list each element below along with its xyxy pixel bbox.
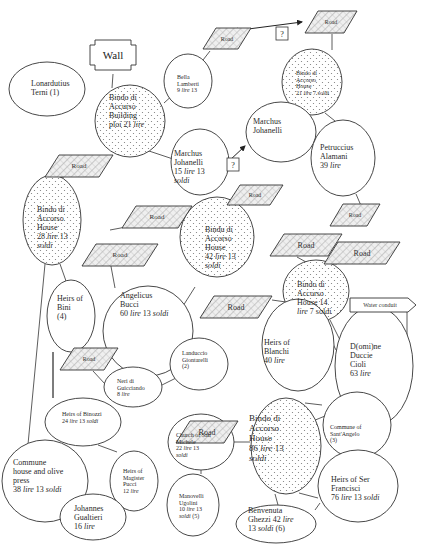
node-label-line: Sant'Angelo bbox=[330, 431, 362, 438]
label-text: 13 bbox=[58, 232, 68, 241]
node-label-line: 13 soldi (6) bbox=[248, 525, 293, 534]
label-text: Blanchi bbox=[264, 347, 289, 356]
label-text: 16 bbox=[74, 522, 84, 531]
label-text: Heirs of bbox=[264, 338, 290, 347]
node-label-line: soldi bbox=[174, 177, 205, 186]
label-text: Michele bbox=[176, 439, 196, 445]
label-text: Lamberti bbox=[177, 81, 199, 87]
label-text: Heirs of bbox=[123, 468, 143, 474]
road-label: Road bbox=[325, 19, 338, 25]
node-label-line: Ugolini bbox=[179, 500, 204, 507]
node-label-line: Neri di bbox=[117, 378, 145, 385]
label-text: House 14 bbox=[297, 298, 327, 307]
node-label-line: soldi bbox=[176, 452, 211, 459]
node-label-neri: Neri diGuicciando8 lire bbox=[117, 378, 145, 398]
node-label-line: soldi bbox=[37, 242, 68, 251]
node-label-line: 8 lire bbox=[117, 391, 145, 398]
label-text: press bbox=[13, 476, 29, 485]
currency-unit: soldi bbox=[249, 453, 267, 463]
currency-unit: lire bbox=[133, 120, 144, 129]
label-text: Heirs of Binozzi bbox=[62, 411, 102, 417]
node-label-line: Giontarelli bbox=[182, 357, 208, 364]
connector-line bbox=[146, 150, 173, 159]
label-text: Commune bbox=[13, 458, 46, 467]
connector-line bbox=[315, 503, 320, 510]
label-text: 22 bbox=[176, 445, 184, 451]
road-label: Road bbox=[150, 213, 165, 221]
node-label-line: soldi bbox=[205, 262, 236, 271]
label-text: 86 bbox=[249, 443, 260, 453]
label-text: Bindo di bbox=[296, 70, 317, 76]
currency-unit: lire bbox=[184, 445, 192, 451]
connector-line bbox=[183, 287, 195, 306]
label-text: Bindo di bbox=[249, 413, 280, 423]
node-label-line: soldi bbox=[249, 453, 284, 463]
currency-unit: lire bbox=[182, 87, 190, 93]
node-label-line: Lamberti bbox=[177, 81, 199, 88]
label-text: Bindu di bbox=[205, 225, 233, 234]
label-text: Guicciando bbox=[117, 385, 145, 391]
question-mark-label: ? bbox=[231, 161, 235, 170]
node-label-line: Accorso bbox=[249, 423, 284, 433]
connector-line bbox=[93, 371, 105, 384]
label-text: (3) bbox=[330, 437, 337, 443]
currency-unit: lire bbox=[84, 522, 95, 531]
label-text: Johanelli bbox=[253, 126, 282, 135]
node-label-line: (3) bbox=[330, 437, 362, 444]
road-label: Road bbox=[83, 356, 96, 362]
label-text: House bbox=[37, 223, 57, 232]
node-label-bindo-house-86: Bindo diAccorsoHouse86 lire 13soldi bbox=[249, 413, 284, 463]
currency-unit: lire bbox=[297, 307, 308, 316]
label-text: Petruccius bbox=[320, 143, 353, 152]
label-text: Angelicus bbox=[120, 291, 152, 300]
label-text: 13 bbox=[272, 443, 283, 453]
label-text: 15 bbox=[174, 167, 184, 176]
node-label-benvenuta-ghezzi: BenvenutaGhezzi 42 lire13 soldi (6) bbox=[248, 507, 293, 534]
water-conduit-label: Water conduit bbox=[363, 302, 397, 308]
label-text: 12 bbox=[123, 488, 131, 494]
node-label-line: soldi (5) bbox=[179, 513, 204, 520]
node-label-heirs-blanchi: Heirs ofBlanchi40 lire bbox=[264, 339, 290, 366]
node-label-line: Bindo di bbox=[296, 70, 329, 77]
label-text: 60 bbox=[120, 309, 130, 318]
question-mark-label: ? bbox=[280, 30, 284, 39]
node-label-line: Bella bbox=[177, 74, 199, 81]
label-text: (4) bbox=[57, 312, 66, 321]
label-text: Bindo di bbox=[37, 205, 65, 214]
label-text: Duccie bbox=[350, 351, 373, 360]
currency-unit: lire bbox=[341, 493, 352, 502]
node-label-angelicus-bucci: AngelicusBucci60 lire 13 soldi bbox=[120, 292, 168, 319]
node-label-marchus-johanelli-2: MarchusJohanelli15 lire 13soldi bbox=[174, 150, 205, 186]
node-label-line: 10 lire 13 bbox=[179, 506, 204, 513]
label-text: House bbox=[205, 243, 225, 252]
connector-line bbox=[299, 493, 318, 498]
currency-unit: soldi bbox=[87, 418, 99, 424]
connector-line bbox=[275, 494, 278, 505]
connector-line bbox=[305, 403, 322, 405]
node-label-line: Pucci bbox=[123, 481, 144, 488]
label-text: 13 bbox=[226, 252, 236, 261]
label-text: 13 bbox=[78, 418, 87, 424]
label-text: 76 bbox=[331, 493, 341, 502]
connector-line bbox=[203, 51, 210, 60]
currency-unit: lire bbox=[304, 90, 312, 96]
label-text: Bella bbox=[177, 74, 190, 80]
currency-unit: lire bbox=[130, 309, 141, 318]
currency-unit: lire bbox=[23, 485, 34, 494]
connector-line bbox=[272, 300, 286, 302]
currency-unit: lire bbox=[47, 232, 58, 241]
node-label-manovelli: ManovelliUgolini10 lire 13soldi (5) bbox=[179, 493, 204, 520]
node-label-line: Manovelli bbox=[179, 493, 204, 500]
currency-unit: soldi bbox=[258, 524, 274, 533]
connector-line bbox=[60, 264, 66, 281]
connector-line bbox=[162, 378, 176, 385]
label-text: Magister bbox=[123, 475, 144, 481]
node-label-domine-duccie: D(omi)neDuccieCioli63 lire bbox=[350, 343, 381, 379]
connector-line bbox=[112, 74, 113, 88]
currency-unit: lire bbox=[283, 515, 294, 524]
node-label-heirs-ser-francisci: Heirs of SerFrancisci76 lire 13 soldi bbox=[331, 476, 379, 503]
label-text: Commune of bbox=[330, 424, 362, 430]
road-label: Road bbox=[228, 303, 245, 312]
connector-line bbox=[325, 113, 335, 121]
node-label-line: Church of San bbox=[176, 432, 211, 439]
